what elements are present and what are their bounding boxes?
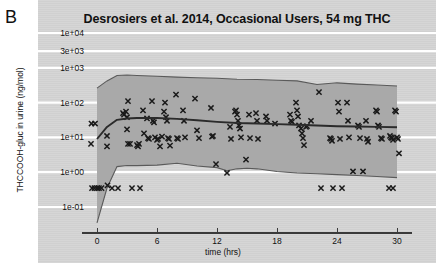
x-axis-tick-label: 18 (272, 236, 281, 246)
y-axis-tick-label: 1e+04 (60, 28, 84, 38)
chart-title: Desrosiers et al. 2014, Occasional Users… (38, 12, 436, 26)
y-axis-tick-label: 3e+03 (60, 46, 84, 56)
x-axis-tick-mark (217, 228, 218, 233)
x-axis-tick-label: 0 (95, 236, 100, 246)
y-axis-tick-label: 1e+01 (60, 132, 84, 142)
panel-texture (38, 0, 436, 263)
y-axis-tick-label: 1e+00 (60, 167, 84, 177)
x-axis-tick-label: 12 (212, 236, 221, 246)
x-axis-title: time (hrs) (0, 247, 446, 257)
y-axis-tick-label: 1e-01 (62, 202, 84, 212)
x-axis-tick-mark (397, 228, 398, 233)
x-axis-tick-label: 30 (392, 236, 401, 246)
x-axis-tick-mark (157, 228, 158, 233)
x-axis-tick-mark (277, 228, 278, 233)
y-axis-tick-label: 1e+03 (60, 63, 84, 73)
y-axis-title: THCCOOH-gluc in urine (ng/mol) (15, 50, 25, 210)
x-axis-tick-label: 6 (155, 236, 160, 246)
y-axis-tick-labels: 1e+043e+031e+031e+021e+011e+001e-01 (44, 0, 84, 269)
y-axis-tick-label: 1e+02 (60, 98, 84, 108)
x-axis-line (82, 232, 412, 234)
panel-letter: B (5, 8, 17, 26)
x-axis-tick-label: 24 (332, 236, 341, 246)
x-axis-tick-mark (97, 228, 98, 233)
figure-panel (38, 0, 436, 263)
x-axis-tick-mark (337, 228, 338, 233)
figure-root: B Desrosiers et al. 2014, Occasional Use… (0, 0, 446, 269)
